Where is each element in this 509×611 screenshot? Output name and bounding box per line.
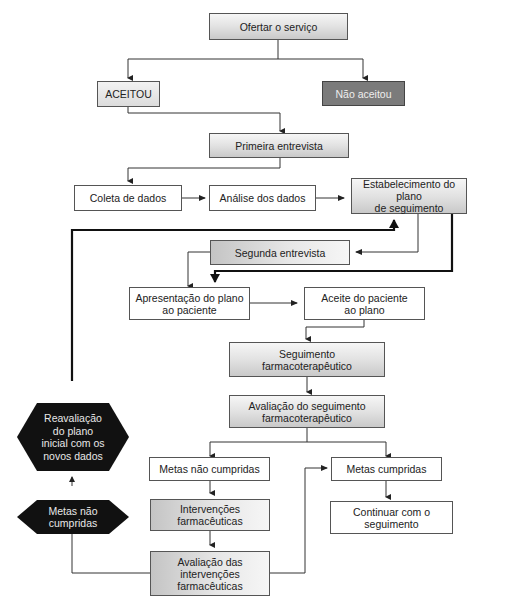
node-label-line: cumpridas <box>49 517 97 530</box>
node-label-line: farmacoterapêutico <box>262 412 352 424</box>
node-label-line: farmacêuticas <box>177 515 242 527</box>
node-label-line: Intervenções <box>180 503 240 515</box>
node-label-line: seguimento <box>364 518 418 530</box>
node-label: Ofertar o serviço <box>240 21 318 33</box>
node-label: Coleta de dados <box>90 192 166 204</box>
node-metas-nao-cumpridas: Metas não cumpridas <box>149 457 270 481</box>
node-label-line: Reavaliação <box>44 412 102 425</box>
node-label-line: ao paciente <box>162 304 216 316</box>
node-label: ACEITOU <box>105 88 151 100</box>
node-analise-dados: Análise dos dados <box>209 185 316 211</box>
node-label: Primeira entrevista <box>235 140 323 152</box>
node-continuar-seguimento: Continuar com o seguimento <box>330 501 453 534</box>
node-hex-metas-nao-cumpridas: Metas não cumpridas <box>17 500 129 534</box>
node-reavaliacao-plano: Reavaliação do plano inicial com os novo… <box>17 403 129 471</box>
node-intervencoes-farmaceuticas: Intervenções farmacêuticas <box>150 499 270 531</box>
node-label-line: Estabelecimento do plano <box>356 178 462 202</box>
node-label-line: ao plano <box>344 304 384 316</box>
node-metas-cumpridas: Metas cumpridas <box>331 457 442 481</box>
node-label-line: novos dados <box>43 450 103 463</box>
node-label: Metas não cumpridas <box>159 463 259 475</box>
node-label-line: Apresentação do plano <box>136 292 244 304</box>
node-label-line: Continuar com o <box>353 506 430 518</box>
node-label: Não aceitou <box>335 88 391 100</box>
node-label-line: intervenções <box>180 568 240 580</box>
node-label: Metas cumpridas <box>347 463 427 475</box>
node-label-line: Avaliação das <box>177 556 242 568</box>
node-label-line: Seguimento <box>279 348 335 360</box>
node-label-line: Metas não <box>48 505 97 518</box>
node-nao-aceitou: Não aceitou <box>322 81 405 106</box>
node-label-line: de seguimento <box>375 202 444 214</box>
node-label-line: farmacoterapêutico <box>262 360 352 372</box>
node-apresentacao-plano: Apresentação do plano ao paciente <box>129 287 250 320</box>
node-avaliacao-seguimento: Avaliação do seguimento farmacoterapêuti… <box>229 395 385 428</box>
node-segunda-entrevista: Segunda entrevista <box>210 240 350 265</box>
node-aceite-paciente: Aceite do paciente ao plano <box>304 287 425 320</box>
node-coleta-dados: Coleta de dados <box>74 185 182 211</box>
node-avaliacao-intervencoes: Avaliação das intervenções farmacêuticas <box>150 551 270 596</box>
node-estabelecimento-plano: Estabelecimento do plano de seguimento <box>351 178 467 214</box>
node-aceitou: ACEITOU <box>97 81 160 107</box>
node-label-line: farmacêuticas <box>177 580 242 592</box>
node-ofertar-servico: Ofertar o serviço <box>209 13 348 40</box>
node-label-line: Avaliação do seguimento <box>248 400 365 412</box>
node-label: Análise dos dados <box>220 192 306 204</box>
node-seguimento-farmacoterapeutico: Seguimento farmacoterapêutico <box>229 342 385 377</box>
node-label-line: do plano <box>53 425 93 438</box>
node-label: Segunda entrevista <box>235 247 325 259</box>
node-label-line: inicial com os <box>41 437 104 450</box>
node-primeira-entrevista: Primeira entrevista <box>209 133 349 158</box>
node-label-line: Aceite do paciente <box>321 292 407 304</box>
